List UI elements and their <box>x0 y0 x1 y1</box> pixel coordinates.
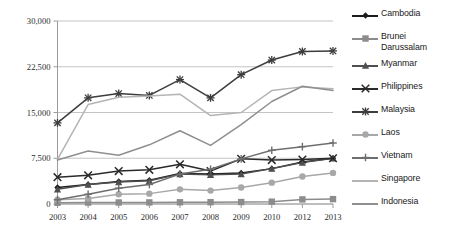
chart-screenshot: 07,50015,00022,50030,000 200320042005200… <box>0 0 450 236</box>
data-point-plus <box>115 184 123 192</box>
data-point-square <box>299 196 305 202</box>
data-point-plus <box>329 139 337 147</box>
legend-key <box>352 129 378 140</box>
legend-key <box>352 152 378 163</box>
series-cambodia <box>54 155 336 191</box>
y-tick-label: 0 <box>46 199 50 209</box>
line-chart-svg: 07,50015,00022,50030,000 200320042005200… <box>0 0 345 236</box>
legend-item-philippines[interactable]: Philippines <box>352 81 450 101</box>
legend-key <box>352 106 378 117</box>
x-tick-label: 2008 <box>202 212 219 222</box>
legend-key <box>352 83 378 94</box>
x-tick-label: 2006 <box>141 212 159 222</box>
x-tick-label: 2004 <box>80 212 98 222</box>
legend-key <box>352 175 378 186</box>
plus-marker <box>361 153 370 162</box>
diamond-marker <box>361 11 370 20</box>
axis-lines <box>54 21 334 208</box>
legend-line-swatch <box>352 203 378 205</box>
data-point-asterisk <box>362 108 370 116</box>
data-point-asterisk <box>329 47 337 55</box>
series-line <box>58 199 334 203</box>
y-axis-tick-labels: 07,50015,00022,50030,000 <box>27 16 51 209</box>
data-point-square <box>207 199 213 205</box>
data-point-asterisk <box>207 94 215 102</box>
data-point-plus <box>268 147 276 155</box>
data-point-asterisk <box>54 119 62 127</box>
legend-item-label: Malaysia <box>381 104 415 115</box>
gridlines <box>58 21 334 204</box>
x-tick-label: 2010 <box>263 212 280 222</box>
square-marker <box>361 34 370 43</box>
x-marker <box>361 84 370 93</box>
legend-key <box>352 60 378 71</box>
data-point-plus <box>362 154 370 162</box>
series-vietnam <box>54 139 337 203</box>
legend-item-label: Vietnam <box>381 150 412 161</box>
data-point-square <box>146 199 152 205</box>
y-tick-label: 15,000 <box>27 108 51 118</box>
data-point-plus <box>299 143 307 151</box>
chart-legend: CambodiaBrunei DarussalamMyanmarPhilippi… <box>352 8 450 219</box>
data-point-diamond <box>362 12 368 18</box>
data-point-x <box>362 85 370 93</box>
y-tick-label: 30,000 <box>27 16 51 26</box>
legend-item-myanmar[interactable]: Myanmar <box>352 58 450 78</box>
asterisk-marker <box>361 107 370 116</box>
data-point-asterisk <box>268 56 276 64</box>
data-point-square <box>362 35 368 41</box>
data-point-square <box>269 198 275 204</box>
series-line <box>58 86 334 160</box>
data-point-square <box>116 199 122 205</box>
y-tick-label: 7,500 <box>31 153 50 163</box>
legend-item-malaysia[interactable]: Malaysia <box>352 104 450 124</box>
legend-item-singapore[interactable]: Singapore <box>352 173 450 193</box>
legend-item-label: Cambodia <box>381 8 420 19</box>
series-line <box>58 143 334 200</box>
series-malaysia <box>54 47 338 127</box>
data-point-circle <box>207 187 213 193</box>
x-tick-label: 2005 <box>110 212 127 222</box>
x-tick-label: 2013 <box>324 212 341 222</box>
legend-item-laos[interactable]: Laos <box>352 127 450 147</box>
legend-key <box>352 10 378 21</box>
legend-item-label: Indonesia <box>381 196 418 207</box>
data-point-asterisk <box>298 48 306 56</box>
legend-item-label: Myanmar <box>381 58 417 69</box>
x-tick-label: 2009 <box>233 212 250 222</box>
data-point-circle <box>362 131 368 137</box>
chart-plot-area: 07,50015,00022,50030,000 200320042005200… <box>0 0 345 236</box>
x-axis-tick-labels: 2003200420052006200720082009201020122013 <box>49 212 342 222</box>
data-point-circle <box>269 179 275 185</box>
legend-item-vietnam[interactable]: Vietnam <box>352 150 450 170</box>
x-tick-label: 2012 <box>294 212 311 222</box>
data-point-square <box>177 199 183 205</box>
legend-item-brunei-darussalam[interactable]: Brunei Darussalam <box>352 31 450 55</box>
data-point-square <box>330 196 336 202</box>
series-line <box>58 173 334 200</box>
data-point-triangle <box>362 62 369 69</box>
series-indonesia <box>58 86 334 160</box>
data-point-circle <box>238 184 244 190</box>
data-point-asterisk <box>237 71 245 79</box>
data-series-layer <box>54 47 338 206</box>
data-point-circle <box>330 170 336 176</box>
circle-marker <box>361 130 370 139</box>
legend-key <box>352 33 378 44</box>
x-tick-label: 2007 <box>171 212 189 222</box>
data-point-square <box>238 199 244 205</box>
legend-key <box>352 198 378 209</box>
y-tick-label: 22,500 <box>27 62 51 72</box>
triangle-marker <box>361 61 370 70</box>
legend-item-cambodia[interactable]: Cambodia <box>352 8 450 28</box>
legend-item-label: Laos <box>381 127 400 138</box>
data-point-circle <box>299 173 305 179</box>
data-point-circle <box>146 190 152 196</box>
legend-item-label: Singapore <box>381 173 420 184</box>
legend-item-label: Philippines <box>381 81 422 92</box>
legend-item-label: Brunei Darussalam <box>381 31 450 52</box>
data-point-plus <box>207 165 215 173</box>
data-point-asterisk <box>176 76 184 84</box>
legend-item-indonesia[interactable]: Indonesia <box>352 196 450 216</box>
data-point-circle <box>177 186 183 192</box>
